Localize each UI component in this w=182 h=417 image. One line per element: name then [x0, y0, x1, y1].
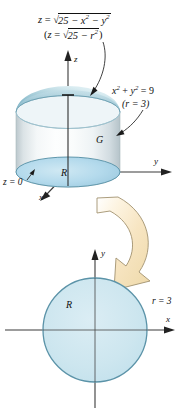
label-solid-G: G: [96, 135, 103, 145]
eq2-radicand-group: 25 − r2: [68, 28, 99, 41]
lower-axis-label-y: y: [101, 249, 105, 258]
label-cylinder-equation-polar: (r = 3): [122, 99, 149, 109]
cyl1-equals-nine: = 9: [138, 85, 154, 96]
eq1-radicand: 25 − x: [58, 15, 86, 26]
cyl1-plus: +: [120, 85, 131, 96]
label-radius-r-three: r = 3: [152, 297, 172, 307]
axis-label-y: y: [154, 157, 158, 166]
label-cylinder-equation-cartesian: x2 + y2 = 9: [112, 85, 154, 96]
eq1-radicand-group: 25 − x2 − y2: [58, 13, 111, 26]
axis-label-z: z: [74, 55, 78, 64]
label-sphere-equation-polar: (z = √25 − r2): [44, 27, 103, 40]
eq2-radicand: 25 − r: [68, 30, 95, 41]
label-base-region-R: R: [61, 168, 67, 178]
label-sphere-equation-cartesian: z = √25 − x2 − y2: [38, 12, 111, 25]
leader-sphere-equation: [90, 42, 105, 96]
eq2-close-paren: ): [99, 29, 103, 40]
axis-label-x: x: [39, 193, 43, 202]
eq2-equals: =: [52, 29, 63, 40]
flow-arrow: [97, 197, 150, 290]
eq2-exponent-r: 2: [94, 28, 98, 36]
eq1-exponent-y: 2: [106, 13, 110, 21]
label-disk-region-R: R: [66, 300, 72, 310]
lower-axis-label-x: x: [166, 315, 170, 324]
label-plane-z-zero: z = 0: [3, 178, 23, 188]
figure-canvas: [0, 0, 182, 417]
eq1-middle: − y: [89, 15, 106, 26]
figure-container: z = √25 − x2 − y2 (z = √25 − r2) x2 + y2…: [0, 0, 182, 417]
eq1-equals: =: [42, 14, 53, 25]
